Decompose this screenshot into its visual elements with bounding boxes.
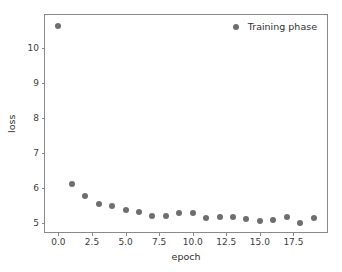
x-axis-label: epoch (44, 252, 328, 262)
x-axis-tick (193, 232, 194, 236)
y-axis-tick-label: 6 (33, 184, 39, 193)
data-point (55, 23, 61, 29)
x-axis-tick-label: 5.0 (118, 238, 132, 247)
data-point (163, 213, 169, 219)
data-point (96, 201, 102, 207)
data-point (176, 210, 182, 216)
y-axis-label-text: loss (7, 114, 17, 132)
data-point (69, 181, 75, 187)
x-axis-tick-label: 7.5 (152, 238, 166, 247)
data-point (284, 214, 290, 220)
data-point (270, 217, 276, 223)
x-axis-tick (58, 232, 59, 236)
data-point (190, 210, 196, 216)
x-axis-tick (92, 232, 93, 236)
x-axis-tick-label: 10.0 (183, 238, 203, 247)
x-axis-tick (159, 232, 160, 236)
y-axis-tick (42, 83, 46, 84)
y-axis-tick-label: 5 (33, 219, 39, 228)
data-point (217, 214, 223, 220)
y-axis-tick (42, 48, 46, 49)
data-point (297, 220, 303, 226)
x-axis-tick (226, 232, 227, 236)
y-axis-tick-label: 8 (33, 114, 39, 123)
legend: Training phase (219, 19, 323, 35)
x-axis-tick (293, 232, 294, 236)
data-point (257, 218, 263, 224)
legend-marker-icon (233, 24, 239, 30)
x-axis-tick-label: 12.5 (216, 238, 236, 247)
x-axis-tick-label: 15.0 (250, 238, 270, 247)
y-axis-tick-label: 10 (28, 44, 39, 53)
y-axis-tick (42, 188, 46, 189)
data-point (82, 193, 88, 199)
y-axis-tick (42, 118, 46, 119)
x-axis-tick-label: 17.5 (283, 238, 303, 247)
x-axis-tick-label: 2.5 (85, 238, 99, 247)
data-point (149, 213, 155, 219)
data-point (203, 215, 209, 221)
x-axis-tick-label: 0.0 (51, 238, 65, 247)
data-point (243, 216, 249, 222)
data-point (311, 215, 317, 221)
x-axis-label-text: epoch (172, 251, 201, 262)
data-point (109, 203, 115, 209)
y-axis-label: loss (6, 14, 18, 233)
y-axis-tick-label: 7 (33, 149, 39, 158)
legend-label: Training phase (248, 22, 317, 32)
plot-axes: Training phase 56789100.02.55.07.510.012… (44, 14, 328, 233)
x-axis-tick (260, 232, 261, 236)
figure-canvas: loss Training phase 56789100.02.55.07.51… (0, 0, 342, 272)
data-point (230, 214, 236, 220)
x-axis-tick (126, 232, 127, 236)
y-axis-tick-label: 9 (33, 79, 39, 88)
scatter-plot-area (45, 15, 327, 232)
data-point (136, 209, 142, 215)
y-axis-tick (42, 223, 46, 224)
y-axis-tick (42, 153, 46, 154)
data-point (123, 207, 129, 213)
